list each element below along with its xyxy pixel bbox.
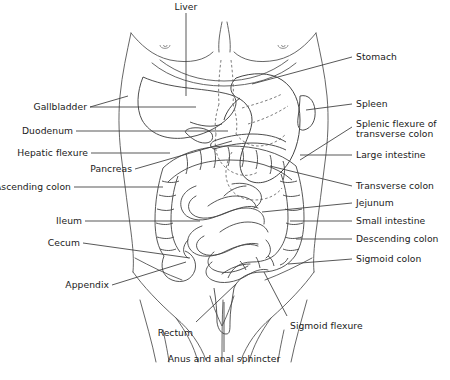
label-splenic-flexure-line2: transverse colon [356, 128, 433, 139]
label-rectum: Rectum [158, 327, 193, 338]
label-ileum: Ileum [56, 215, 82, 226]
label-sigmoid-colon: Sigmoid colon [356, 253, 422, 264]
label-ascending-colon: Ascending colon [0, 181, 71, 192]
label-anus: Anus and anal sphincter [168, 353, 281, 364]
label-small-intestine: Small intestine [356, 215, 426, 226]
label-descending-colon: Descending colon [356, 233, 439, 244]
leader-transverse-colon [270, 166, 352, 186]
leader-spleen [306, 104, 352, 110]
label-sigmoid-flexure: Sigmoid flexure [290, 320, 363, 331]
body-outline-group [119, 22, 328, 362]
small-intestine-organ [181, 183, 271, 282]
leader-sigmoid-flexure [264, 272, 287, 316]
label-gallbladder: Gallbladder [33, 101, 87, 112]
leader-sigmoid-colon [288, 259, 352, 264]
label-jejunum: Jejunum [355, 197, 394, 208]
anatomy-diagram: Liver Gallbladder Duodenum Hepatic flexu… [0, 0, 450, 380]
label-transverse-colon: Transverse colon [355, 180, 434, 191]
leader-cecum [83, 243, 190, 258]
label-large-intestine: Large intestine [356, 149, 426, 160]
label-spleen: Spleen [356, 98, 388, 109]
leader-gallbladder-d [90, 96, 128, 107]
label-liver: Liver [175, 1, 198, 12]
gallbladder-organ [185, 128, 212, 143]
label-duodenum: Duodenum [22, 125, 73, 136]
stomach-organ [224, 74, 300, 183]
leader-jejunum [262, 203, 352, 212]
label-pancreas: Pancreas [90, 163, 132, 174]
label-hepatic-flexure: Hepatic flexure [17, 147, 88, 158]
label-appendix: Appendix [65, 279, 109, 290]
label-stomach: Stomach [356, 51, 397, 62]
label-cecum: Cecum [48, 237, 80, 248]
nipple-marks [160, 45, 288, 48]
leader-lines [74, 13, 352, 352]
